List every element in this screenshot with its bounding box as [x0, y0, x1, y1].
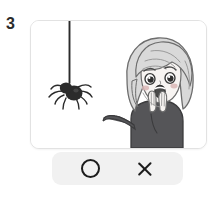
- answer-bar: O X: [52, 152, 183, 185]
- illustration-scene: [31, 21, 206, 148]
- girl-eye-highlight-right: [168, 76, 170, 78]
- question-number: 3: [6, 16, 15, 32]
- circle-icon[interactable]: [81, 159, 100, 178]
- spider-highlight: [73, 89, 78, 93]
- answer-option-cross[interactable]: X: [125, 152, 165, 185]
- illustration-card: A cartoon girl with a light gray bob hai…: [30, 20, 207, 149]
- spider-head: [60, 82, 72, 93]
- girl-blush-left: [142, 86, 149, 91]
- girl-blush-right: [170, 84, 177, 89]
- girl-body: [131, 101, 183, 148]
- cross-icon[interactable]: [135, 159, 155, 179]
- answer-option-circle[interactable]: O: [70, 152, 110, 185]
- girl-eye-highlight-left: [148, 77, 150, 79]
- girl-hand-right: [159, 91, 167, 111]
